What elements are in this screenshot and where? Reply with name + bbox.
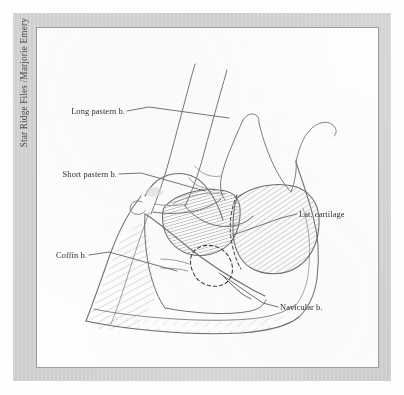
- lateral-cartilage-right-lobe: [233, 185, 319, 274]
- coronary-band-line: [296, 122, 336, 162]
- label-navicular: Navicular b.: [280, 303, 323, 312]
- pastern-front-contour: [221, 120, 243, 200]
- lateral-cartilage-left-lobe: [162, 190, 240, 256]
- flexor-tendon-line-a: [161, 259, 189, 264]
- illustration-plate: Long pastern b. Short pastern b. Coffin …: [36, 27, 379, 368]
- leader-navicular: [219, 273, 278, 307]
- label-short-pastern: Short pastern b.: [63, 170, 117, 179]
- hoof-anatomy-drawing: Long pastern b. Short pastern b. Coffin …: [37, 28, 379, 368]
- label-lat-cartilage: Lat. cartilage: [299, 210, 345, 219]
- label-coffin: Coffin b.: [56, 251, 87, 260]
- coffin-bone-sole-face: [165, 300, 266, 314]
- credit-text: Star Ridge Files /Marjorie Emery: [20, 18, 29, 147]
- credit-line: Star Ridge Files /Marjorie Emery: [17, 18, 33, 188]
- label-long-pastern: Long pastern b.: [71, 107, 125, 116]
- pastern-crest-curve: [243, 114, 259, 123]
- pastern-back-contour: [259, 123, 291, 192]
- navicular-lower-edge: [223, 276, 251, 299]
- graphite-smudge: [145, 187, 163, 197]
- figure-page: Star Ridge Files /Marjorie Emery: [0, 0, 404, 395]
